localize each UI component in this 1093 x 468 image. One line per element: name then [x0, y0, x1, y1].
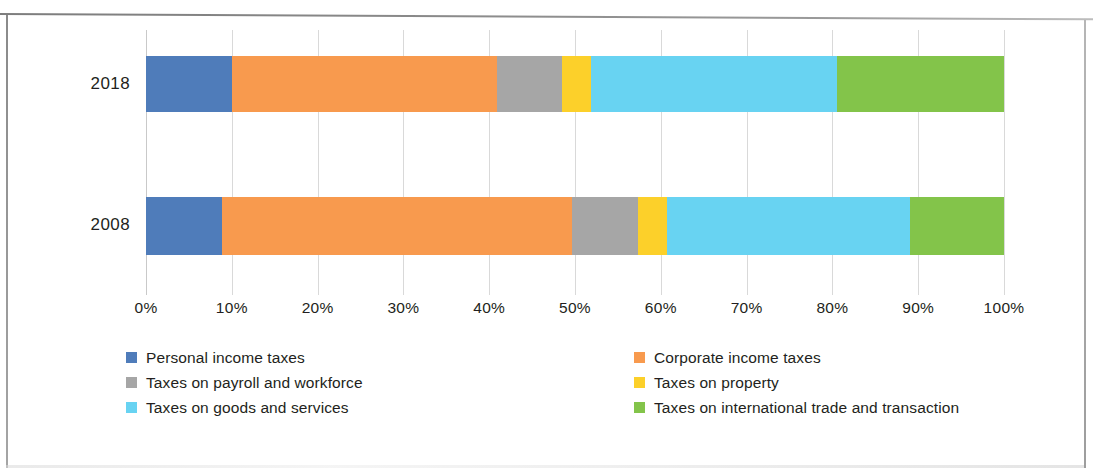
stacked-bar-2018	[146, 56, 1004, 112]
legend-label: Personal income taxes	[146, 349, 305, 367]
bar-segment	[638, 197, 667, 255]
legend-label: Taxes on property	[654, 374, 779, 392]
legend-item: Taxes on property	[634, 374, 1026, 392]
chart-legend: Personal income taxesCorporate income ta…	[126, 345, 1026, 420]
bar-segment	[591, 56, 836, 112]
legend-label: Taxes on goods and services	[146, 399, 349, 417]
x-tick-10pct: 10%	[216, 299, 248, 317]
legend-item: Corporate income taxes	[634, 349, 1026, 367]
category-label-2008: 2008	[60, 215, 130, 235]
page-frame-top-rule	[0, 13, 1093, 20]
category-label-2018: 2018	[60, 74, 130, 94]
gridline-100pct	[1004, 30, 1005, 295]
bar-segment	[562, 56, 591, 112]
x-tick-80pct: 80%	[816, 299, 848, 317]
x-tick-90pct: 90%	[902, 299, 934, 317]
bar-segment	[572, 197, 638, 255]
x-tick-60pct: 60%	[645, 299, 677, 317]
legend-swatch-icon	[126, 402, 137, 413]
legend-label: Taxes on payroll and workforce	[146, 374, 363, 392]
x-tick-20pct: 20%	[302, 299, 334, 317]
x-axis-tick-labels: 0%10%20%30%40%50%60%70%80%90%100%	[146, 299, 1004, 325]
legend-swatch-icon	[126, 352, 137, 363]
x-tick-40pct: 40%	[473, 299, 505, 317]
stacked-bar-2008	[146, 197, 1004, 255]
x-tick-100pct: 100%	[984, 299, 1025, 317]
bar-segment	[667, 197, 910, 255]
legend-swatch-icon	[634, 402, 645, 413]
x-tick-50pct: 50%	[559, 299, 591, 317]
bar-segment	[497, 56, 562, 112]
legend-item: Taxes on goods and services	[126, 399, 634, 417]
legend-swatch-icon	[634, 352, 645, 363]
legend-swatch-icon	[634, 377, 645, 388]
legend-item: Personal income taxes	[126, 349, 634, 367]
x-tick-70pct: 70%	[731, 299, 763, 317]
plot-area	[146, 30, 1004, 295]
bar-segment	[232, 56, 497, 112]
page-frame-left-rule	[6, 15, 8, 468]
legend-label: Corporate income taxes	[654, 349, 821, 367]
x-tick-0pct: 0%	[134, 299, 157, 317]
legend-swatch-icon	[126, 377, 137, 388]
legend-label: Taxes on international trade and transac…	[654, 399, 959, 417]
legend-item: Taxes on international trade and transac…	[634, 399, 1026, 417]
bar-segment	[222, 197, 572, 255]
page-frame-right-rule	[1084, 20, 1086, 468]
legend-item: Taxes on payroll and workforce	[126, 374, 634, 392]
chart-figure: 2018 2008 0%10%20%30%40%50%60%70%80%90%1…	[0, 0, 1093, 468]
bar-segment	[837, 56, 1004, 112]
bar-segment	[146, 56, 232, 112]
x-tick-30pct: 30%	[387, 299, 419, 317]
bar-segment	[910, 197, 1004, 255]
bar-segment	[146, 197, 222, 255]
